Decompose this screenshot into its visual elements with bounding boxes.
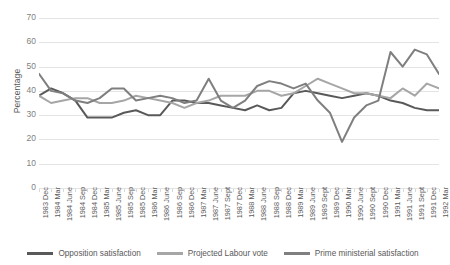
legend-item[interactable]: Opposition satisfaction bbox=[27, 249, 140, 258]
x-axis-tick-mark bbox=[100, 189, 101, 192]
x-axis-tick-mark bbox=[148, 189, 149, 192]
x-axis-tick-label: 1984 June bbox=[66, 185, 73, 243]
x-axis-tick-mark bbox=[342, 189, 343, 192]
x-axis-tick-label: 1987 June bbox=[212, 185, 219, 243]
x-axis-tick-label: 1989 Dec bbox=[333, 185, 340, 243]
x-axis-tick-label: 1988 Sep bbox=[273, 185, 280, 243]
y-axis-tick-60: 60 bbox=[12, 37, 36, 46]
x-axis-tick-labels: 1983 Dec1984 Mar1984 June1984 Sep1984 De… bbox=[39, 189, 439, 247]
x-axis-tick-mark bbox=[415, 189, 416, 192]
x-axis-tick-mark bbox=[269, 189, 270, 192]
x-axis-tick-label: 1991 Dec bbox=[430, 185, 437, 243]
legend-label: Projected Labour vote bbox=[188, 249, 268, 258]
series-lines bbox=[39, 18, 439, 188]
x-axis-tick-label: 1988 Mar bbox=[248, 185, 255, 243]
legend-swatch bbox=[27, 252, 53, 255]
y-axis-tick-70: 70 bbox=[12, 13, 36, 22]
x-axis-tick-mark bbox=[124, 189, 125, 192]
legend: Opposition satisfactionProjected Labour … bbox=[0, 245, 446, 261]
x-axis-tick-label: 1990 Dec bbox=[382, 185, 389, 243]
y-axis-tick-30: 30 bbox=[12, 110, 36, 119]
x-axis-tick-mark bbox=[172, 189, 173, 192]
x-axis-tick-label: 1992 Mar bbox=[442, 185, 449, 243]
y-axis-tick-50: 50 bbox=[12, 62, 36, 71]
plot-area bbox=[39, 18, 439, 188]
x-axis-tick-label: 1984 Mar bbox=[54, 185, 61, 243]
x-axis-tick-mark bbox=[391, 189, 392, 192]
x-axis-tick-label: 1984 Dec bbox=[91, 185, 98, 243]
legend-item[interactable]: Projected Labour vote bbox=[157, 249, 268, 258]
x-axis-tick-mark bbox=[281, 189, 282, 192]
x-axis-tick-label: 1987 Dec bbox=[236, 185, 243, 243]
legend-label: Prime ministerial satisfaction bbox=[315, 249, 419, 258]
x-axis-tick-mark bbox=[439, 189, 440, 192]
x-axis-tick-mark bbox=[354, 189, 355, 192]
x-axis-tick-mark bbox=[427, 189, 428, 192]
x-axis-tick-label: 1991 Mar bbox=[394, 185, 401, 243]
x-axis-tick-mark bbox=[136, 189, 137, 192]
x-axis-tick-label: 1986 Sep bbox=[176, 185, 183, 243]
y-axis-tick-10: 10 bbox=[12, 159, 36, 168]
x-axis-tick-label: 1991 June bbox=[406, 185, 413, 243]
x-axis-tick-label: 1988 June bbox=[260, 185, 267, 243]
x-axis-tick-mark bbox=[378, 189, 379, 192]
x-axis-tick-label: 1986 Dec bbox=[188, 185, 195, 243]
x-axis-tick-label: 1983 Dec bbox=[42, 185, 49, 243]
y-axis-tick-40: 40 bbox=[12, 86, 36, 95]
y-axis-tick-0: 0 bbox=[12, 183, 36, 192]
legend-swatch bbox=[284, 252, 310, 255]
x-axis-tick-label: 1986 June bbox=[163, 185, 170, 243]
x-axis-tick-mark bbox=[112, 189, 113, 192]
y-axis-tick-20: 20 bbox=[12, 134, 36, 143]
x-axis-tick-label: 1989 Mar bbox=[297, 185, 304, 243]
x-axis-tick-mark bbox=[403, 189, 404, 192]
x-axis-tick-label: 1984 Sep bbox=[79, 185, 86, 243]
x-axis-tick-mark bbox=[51, 189, 52, 192]
x-axis-tick-mark bbox=[330, 189, 331, 192]
x-axis-tick-label: 1989 Sept bbox=[321, 185, 328, 243]
x-axis-tick-mark bbox=[197, 189, 198, 192]
x-axis-tick-mark bbox=[233, 189, 234, 192]
x-axis-tick-label: 1986 Mar bbox=[151, 185, 158, 243]
x-axis-tick-label: 1985 Mar bbox=[103, 185, 110, 243]
x-axis-tick-label: 1991 Sept bbox=[418, 185, 425, 243]
x-axis-tick-label: 1990 June bbox=[357, 185, 364, 243]
x-axis-tick-label: 1988 Dec bbox=[285, 185, 292, 243]
x-axis-tick-mark bbox=[209, 189, 210, 192]
x-axis-tick-mark bbox=[245, 189, 246, 192]
x-axis-tick-label: 1990 Mar bbox=[345, 185, 352, 243]
x-axis-tick-label: 1985 Sep bbox=[127, 185, 134, 243]
x-axis-tick-mark bbox=[306, 189, 307, 192]
x-axis-tick-label: 1987 Mar bbox=[200, 185, 207, 243]
x-axis-tick-mark bbox=[39, 189, 40, 192]
legend-swatch bbox=[157, 252, 183, 255]
x-axis-tick-mark bbox=[75, 189, 76, 192]
x-axis-tick-label: 1989 June bbox=[309, 185, 316, 243]
x-axis-tick-label: 1985 June bbox=[115, 185, 122, 243]
x-axis-tick-label: 1987 Sept bbox=[224, 185, 231, 243]
x-axis-tick-mark bbox=[87, 189, 88, 192]
x-axis-tick-mark bbox=[318, 189, 319, 192]
x-axis-tick-mark bbox=[184, 189, 185, 192]
x-axis-tick-mark bbox=[294, 189, 295, 192]
x-axis-tick-label: 1990 Sept bbox=[369, 185, 376, 243]
x-axis-tick-mark bbox=[221, 189, 222, 192]
legend-label: Opposition satisfaction bbox=[58, 249, 140, 258]
x-axis-tick-label: 1985 Dec bbox=[139, 185, 146, 243]
legend-item[interactable]: Prime ministerial satisfaction bbox=[284, 249, 419, 258]
